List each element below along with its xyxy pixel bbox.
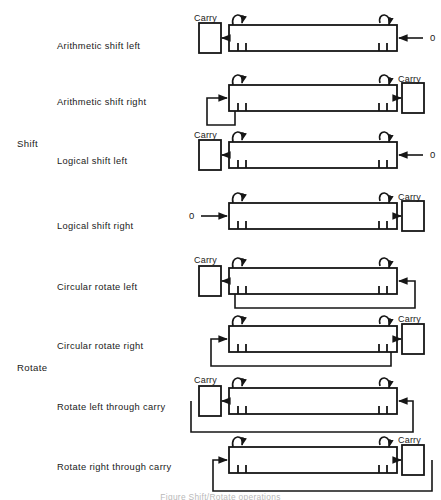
- register-box-rotate-right-through-carry: [229, 447, 397, 473]
- shift-loop-arrow-left: [233, 193, 243, 203]
- shift-rotate-diagram: [0, 0, 441, 500]
- shift-loop-arrow-right: [380, 378, 390, 388]
- carry-box-logical-shift-right: [402, 201, 424, 231]
- shift-loop-arrow-right: [380, 132, 390, 142]
- row-arithmetic-shift-left: [199, 15, 423, 53]
- operation-label-rotate-left-through-carry: Rotate left through carry: [57, 403, 165, 412]
- shift-loop-arrow-left: [233, 132, 243, 142]
- shift-group-label: Shift: [17, 139, 38, 149]
- shift-loop-arrow-left: [233, 258, 243, 268]
- carry-box-rotate-right-through-carry: [402, 445, 424, 475]
- row-logical-shift-right: [201, 193, 424, 231]
- zero-input-label-arithmetic-shift-left: 0: [430, 33, 435, 43]
- shift-loop-arrow-right: [380, 258, 390, 268]
- rotate-group-label: Rotate: [17, 363, 47, 373]
- figure-canvas: ShiftRotate0Arithmetic shift leftCarryAr…: [0, 0, 441, 500]
- row-arithmetic-shift-right: [207, 75, 424, 125]
- carry-label-circular-rotate-right: Carry: [398, 315, 421, 324]
- shift-loop-arrow-right: [380, 437, 390, 447]
- register-box-rotate-left-through-carry: [229, 388, 397, 414]
- carry-box-circular-rotate-right: [402, 324, 424, 354]
- register-box-arithmetic-shift-left: [229, 25, 397, 51]
- shift-loop-arrow-left: [233, 75, 243, 85]
- operation-label-circular-rotate-left: Circular rotate left: [57, 283, 137, 292]
- operation-label-rotate-right-through-carry: Rotate right through carry: [57, 463, 172, 472]
- operation-label-circular-rotate-right: Circular rotate right: [57, 342, 143, 351]
- row-circular-rotate-right: [211, 316, 424, 366]
- carry-label-arithmetic-shift-left: Carry: [194, 14, 217, 23]
- register-box-arithmetic-shift-right: [229, 85, 397, 111]
- carry-box-arithmetic-shift-right: [402, 83, 424, 113]
- shift-loop-arrow-right: [380, 75, 390, 85]
- operation-label-logical-shift-right: Logical shift right: [57, 222, 133, 231]
- row-rotate-left-through-carry: [191, 378, 413, 432]
- carry-label-circular-rotate-left: Carry: [194, 256, 217, 265]
- operation-label-arithmetic-shift-right: Arithmetic shift right: [57, 98, 146, 107]
- shift-loop-arrow-right: [380, 15, 390, 25]
- zero-input-label-logical-shift-right: 0: [189, 211, 194, 221]
- operation-label-arithmetic-shift-left: Arithmetic shift left: [57, 42, 140, 51]
- register-box-circular-rotate-right: [229, 326, 397, 352]
- shift-loop-arrow-left: [233, 437, 243, 447]
- carry-box-rotate-left-through-carry: [199, 386, 221, 416]
- carry-label-rotate-left-through-carry: Carry: [194, 376, 217, 385]
- carry-box-logical-shift-left: [199, 140, 221, 170]
- operation-label-logical-shift-left: Logical shift left: [57, 157, 127, 166]
- register-box-circular-rotate-left: [229, 268, 397, 294]
- row-rotate-right-through-carry: [213, 437, 432, 491]
- carry-label-logical-shift-left: Carry: [194, 131, 217, 140]
- carry-label-logical-shift-right: Carry: [398, 193, 421, 202]
- carry-box-circular-rotate-left: [199, 266, 221, 296]
- shift-loop-arrow-left: [233, 378, 243, 388]
- diagram-rows: [191, 15, 432, 491]
- row-circular-rotate-left: [199, 258, 415, 308]
- shift-loop-arrow-right: [380, 193, 390, 203]
- register-box-logical-shift-right: [229, 203, 397, 229]
- figure-caption: Figure Shift/Rotate operations: [0, 492, 441, 500]
- shift-loop-arrow-left: [233, 15, 243, 25]
- carry-label-rotate-right-through-carry: Carry: [398, 436, 421, 445]
- register-box-logical-shift-left: [229, 142, 397, 168]
- zero-input-label-logical-shift-left: 0: [430, 150, 435, 160]
- row-logical-shift-left: [199, 132, 423, 170]
- carry-label-arithmetic-shift-right: Carry: [398, 75, 421, 84]
- shift-loop-arrow-right: [380, 316, 390, 326]
- shift-loop-arrow-left: [233, 316, 243, 326]
- carry-box-arithmetic-shift-left: [199, 23, 221, 53]
